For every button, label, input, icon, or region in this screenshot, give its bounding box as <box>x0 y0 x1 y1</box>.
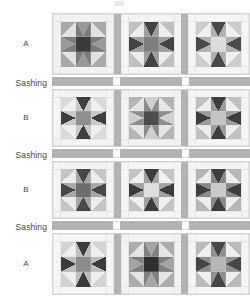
star-block[interactable] <box>188 90 249 146</box>
sashing-strip <box>52 221 250 230</box>
vertical-sashing <box>181 14 188 74</box>
sashing-row-3: Sashing <box>0 221 250 233</box>
sashing-strip <box>52 149 250 158</box>
star-block[interactable] <box>121 14 182 74</box>
row-label-a-bottom: A <box>0 260 52 268</box>
vertical-sashing <box>114 162 121 218</box>
sashing-segment <box>189 221 250 230</box>
sashing-segment <box>52 221 113 230</box>
sashing-segment <box>189 149 250 158</box>
cornerstone <box>182 221 189 230</box>
row-label-b-lower: B <box>0 186 52 194</box>
sashing-segment <box>120 77 181 86</box>
block-row-body <box>52 161 250 219</box>
sashing-row-2: Sashing <box>0 149 250 161</box>
block-row-a-bottom: A <box>0 233 250 295</box>
block-row-body <box>52 233 250 295</box>
block-row-body <box>52 13 250 75</box>
star-block[interactable] <box>53 14 114 74</box>
star-block[interactable] <box>53 162 114 218</box>
top-edge-artifact <box>115 1 124 6</box>
row-label-a-top: A <box>0 40 52 48</box>
cornerstone <box>113 221 120 230</box>
sashing-label-2: Sashing <box>0 151 52 160</box>
vertical-sashing <box>181 90 188 146</box>
sashing-row-1: Sashing <box>0 77 250 89</box>
vertical-sashing <box>114 14 121 74</box>
sashing-strip <box>52 77 250 86</box>
cornerstone <box>113 149 120 158</box>
block-row-a-top: A <box>0 13 250 75</box>
star-block[interactable] <box>53 90 114 146</box>
sashing-label-3: Sashing <box>0 223 52 232</box>
star-block[interactable] <box>188 234 249 294</box>
sashing-segment <box>52 149 113 158</box>
vertical-sashing <box>114 234 121 294</box>
sashing-segment <box>120 221 181 230</box>
block-row-b-upper: B <box>0 89 250 147</box>
block-row-body <box>52 89 250 147</box>
vertical-sashing <box>114 90 121 146</box>
sashing-segment <box>189 77 250 86</box>
sashing-segment <box>52 77 113 86</box>
cornerstone <box>182 77 189 86</box>
star-block[interactable] <box>121 90 182 146</box>
cornerstone <box>113 77 120 86</box>
row-label-b-upper: B <box>0 114 52 122</box>
sashing-segment <box>120 149 181 158</box>
vertical-sashing <box>181 162 188 218</box>
star-block[interactable] <box>53 234 114 294</box>
star-block[interactable] <box>121 234 182 294</box>
quilt-layout-diagram: A <box>0 0 250 303</box>
star-block[interactable] <box>121 162 182 218</box>
sashing-label-1: Sashing <box>0 79 52 88</box>
vertical-sashing <box>181 234 188 294</box>
star-block[interactable] <box>188 14 249 74</box>
cornerstone <box>182 149 189 158</box>
star-block[interactable] <box>188 162 249 218</box>
block-row-b-lower: B <box>0 161 250 219</box>
